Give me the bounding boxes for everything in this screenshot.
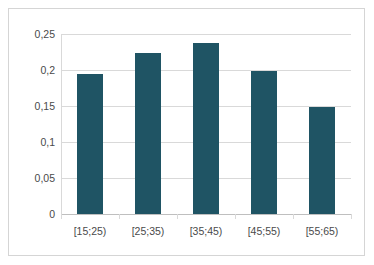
- chart-frame: 0,250,20,150,10,050 [15;25)[25;35)[35;45…: [8, 8, 365, 256]
- y-axis-tick-label: 0,1: [15, 136, 55, 148]
- x-tick-mark: [235, 214, 236, 219]
- plot-area: 0,250,20,150,10,050: [61, 34, 351, 214]
- x-tick-mark: [177, 214, 178, 219]
- bar[interactable]: [193, 43, 219, 214]
- x-tick-mark: [293, 214, 294, 219]
- x-axis-labels: [15;25)[25;35)[35;45)[45;55)[55;65): [61, 225, 351, 241]
- y-axis-tick-label: 0,15: [15, 100, 55, 112]
- bar[interactable]: [251, 71, 277, 214]
- x-axis-tick-label: [15;25): [74, 225, 107, 237]
- x-tick-marks: [61, 214, 351, 219]
- y-axis-tick-label: 0,05: [15, 172, 55, 184]
- x-tick-mark: [119, 214, 120, 219]
- y-axis-tick-label: 0,25: [15, 28, 55, 40]
- x-tick-mark: [351, 214, 352, 219]
- bar-slot: [293, 34, 351, 214]
- bar-slot: [61, 34, 119, 214]
- y-axis-tick-label: 0: [15, 208, 55, 220]
- x-tick-mark: [61, 214, 62, 219]
- x-axis-tick-label: [55;65): [306, 225, 339, 237]
- x-axis-tick-label: [35;45): [190, 225, 223, 237]
- x-axis-tick-label: [25;35): [132, 225, 165, 237]
- bar[interactable]: [135, 53, 161, 214]
- bar-slot: [119, 34, 177, 214]
- bar-slot: [235, 34, 293, 214]
- bar-series: [61, 34, 351, 214]
- bar-slot: [177, 34, 235, 214]
- bar[interactable]: [309, 107, 335, 214]
- bar[interactable]: [77, 74, 103, 214]
- x-axis-tick-label: [45;55): [248, 225, 281, 237]
- y-axis-tick-label: 0,2: [15, 64, 55, 76]
